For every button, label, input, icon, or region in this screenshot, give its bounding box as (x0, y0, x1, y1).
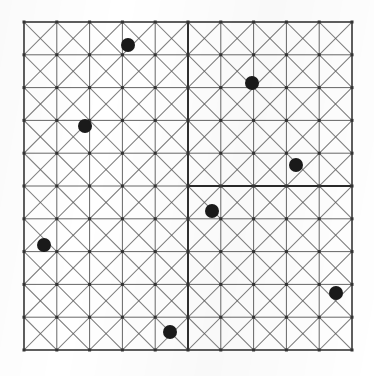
lattice-node-dot (252, 119, 255, 122)
lattice-node-dot (55, 283, 58, 286)
lattice-node-dot (154, 119, 157, 122)
lattice-node-dot (55, 119, 58, 122)
lattice-node-dot (219, 349, 222, 352)
lattice-node-dot (351, 283, 354, 286)
lattice-node-dot (318, 21, 321, 24)
lattice-node-dot (285, 185, 288, 188)
lattice-node-dot (252, 283, 255, 286)
lattice-node-dot (318, 316, 321, 319)
lattice-node-dot (88, 152, 91, 155)
lattice-node-dot (351, 53, 354, 56)
lattice-node-dot (219, 86, 222, 89)
lattice-node-dot (219, 53, 222, 56)
lattice-node-dot (351, 316, 354, 319)
lattice-node-dot (121, 283, 124, 286)
lattice-node-dot (285, 53, 288, 56)
lattice-node-dot (154, 53, 157, 56)
lattice-node-dot (351, 152, 354, 155)
marked-point (78, 119, 92, 133)
lattice-node-dot (285, 349, 288, 352)
lattice-node-dot (154, 217, 157, 220)
lattice-node-dot (219, 316, 222, 319)
lattice-node-dot (88, 185, 91, 188)
lattice-node-dot (121, 250, 124, 253)
marked-point (205, 204, 219, 218)
lattice-node-dot (23, 152, 26, 155)
lattice-node-dot (55, 316, 58, 319)
marked-point (121, 38, 135, 52)
lattice-node-dot (285, 316, 288, 319)
lattice-node-dot (55, 152, 58, 155)
lattice-node-dot (219, 250, 222, 253)
lattice-node-dot (187, 152, 190, 155)
marked-point-dot (163, 325, 177, 339)
lattice-node-dot (285, 250, 288, 253)
lattice-node-dot (187, 86, 190, 89)
lattice-node-dot (88, 349, 91, 352)
lattice-node-dot (88, 53, 91, 56)
lattice-node-dot (23, 185, 26, 188)
lattice-node-dot (121, 185, 124, 188)
lattice-node-dot (55, 86, 58, 89)
lattice-node-dot (88, 250, 91, 253)
lattice-node-dot (318, 119, 321, 122)
lattice-figure (0, 0, 374, 376)
lattice-node-dot (318, 185, 321, 188)
lattice-node-dot (154, 152, 157, 155)
lattice-node-dot (187, 185, 190, 188)
lattice-node-dot (252, 185, 255, 188)
marked-point-dot (329, 286, 343, 300)
marked-point-dot (245, 76, 259, 90)
marked-point (245, 76, 259, 90)
lattice-node-dot (187, 283, 190, 286)
lattice-node-dot (285, 86, 288, 89)
lattice-node-dot (351, 86, 354, 89)
lattice-node-dot (285, 283, 288, 286)
lattice-node-dot (23, 217, 26, 220)
lattice-node-dot (285, 119, 288, 122)
lattice-node-dot (187, 250, 190, 253)
lattice-node-dot (88, 217, 91, 220)
lattice-node-dot (121, 316, 124, 319)
lattice-node-dot (318, 349, 321, 352)
lattice-node-dot (88, 316, 91, 319)
lattice-node-dot (55, 217, 58, 220)
lattice-node-dot (55, 349, 58, 352)
lattice-node-dot (23, 21, 26, 24)
marked-point (329, 286, 343, 300)
lattice-node-dot (187, 217, 190, 220)
lattice-node-dot (154, 283, 157, 286)
lattice-node-dot (252, 152, 255, 155)
lattice-node-dot (252, 250, 255, 253)
lattice-node-dot (187, 349, 190, 352)
lattice-node-dot (351, 349, 354, 352)
lattice-node-dot (154, 349, 157, 352)
lattice-node-dot (219, 185, 222, 188)
marked-point-dot (289, 158, 303, 172)
lattice-node-dot (318, 152, 321, 155)
lattice-node-dot (23, 119, 26, 122)
lattice-node-dot (121, 152, 124, 155)
lattice-node-dot (121, 217, 124, 220)
lattice-node-dot (252, 316, 255, 319)
lattice-node-dot (219, 152, 222, 155)
lattice-node-dot (55, 185, 58, 188)
lattice-node-dot (88, 283, 91, 286)
lattice-node-dot (318, 217, 321, 220)
lattice-node-dot (285, 152, 288, 155)
lattice-node-dot (88, 86, 91, 89)
lattice-node-dot (318, 53, 321, 56)
lattice-node-dot (23, 250, 26, 253)
lattice-node-dot (23, 349, 26, 352)
lattice-node-dot (252, 53, 255, 56)
lattice-node-dot (285, 217, 288, 220)
lattice-node-dot (219, 283, 222, 286)
lattice-node-dot (351, 119, 354, 122)
lattice-node-dot (55, 53, 58, 56)
marked-point (37, 238, 51, 252)
lattice-node-dot (252, 217, 255, 220)
marked-point-dot (121, 38, 135, 52)
marked-point (289, 158, 303, 172)
lattice-node-dot (318, 283, 321, 286)
lattice-node-dot (187, 316, 190, 319)
